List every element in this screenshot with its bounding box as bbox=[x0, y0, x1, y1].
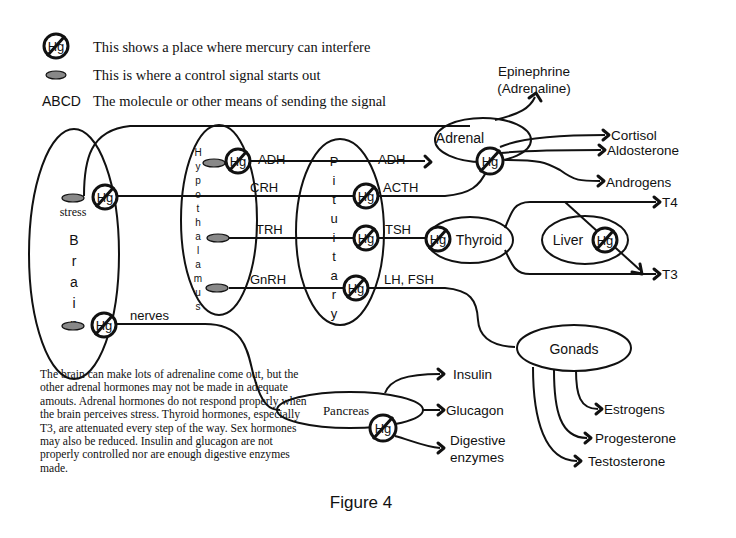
brain-label: B r a i n bbox=[69, 232, 78, 332]
legend-hg-text: This shows a place where mercury can int… bbox=[93, 39, 370, 55]
svg-text:P: P bbox=[330, 154, 339, 169]
legend-hg-icon: Hg bbox=[44, 34, 68, 58]
signal-crh: CRH bbox=[250, 180, 278, 195]
signal-start-stress bbox=[62, 194, 84, 202]
svg-text:h: h bbox=[195, 217, 201, 228]
signal-start-nerves bbox=[62, 322, 84, 330]
hg-icon-pituitary-acth: Hg bbox=[354, 184, 378, 208]
pancreas-label: Pancreas bbox=[323, 403, 369, 418]
legend-abcd-text: The molecule or other means of sending t… bbox=[93, 93, 386, 109]
legend-signal-icon bbox=[46, 71, 66, 79]
svg-text:y: y bbox=[331, 306, 338, 321]
svg-text:a: a bbox=[330, 268, 338, 283]
figure-caption: Figure 4 bbox=[330, 493, 392, 512]
svg-text:l: l bbox=[197, 245, 199, 256]
hg-icon-hypothalamus-adh: Hg bbox=[226, 149, 250, 173]
svg-text:a: a bbox=[70, 274, 78, 290]
signal-trh: TRH bbox=[256, 222, 283, 237]
output-t3: T3 bbox=[662, 267, 678, 282]
svg-text:s: s bbox=[196, 301, 201, 312]
explanatory-note: The brain can make lots of adrenaline co… bbox=[40, 368, 310, 475]
output-estrogens: Estrogens bbox=[604, 402, 665, 417]
svg-text:r: r bbox=[332, 287, 337, 302]
output-digestive: Digestive bbox=[450, 433, 506, 448]
signal-acth: ACTH bbox=[383, 180, 418, 195]
svg-text:o: o bbox=[195, 189, 201, 200]
hg-icon-liver: Hg bbox=[593, 228, 617, 252]
signal-start-trh bbox=[207, 234, 229, 242]
hypothalamus-label: H y p o t h a l a m u s bbox=[194, 147, 202, 312]
hg-icon-pituitary-tsh: Hg bbox=[354, 226, 378, 250]
signal-adh-pituitary: ADH bbox=[378, 152, 405, 167]
svg-text:i: i bbox=[333, 173, 336, 188]
output-epinephrine: Epinephrine bbox=[498, 64, 570, 79]
output-progesterone: Progesterone bbox=[595, 431, 676, 446]
output-adrenaline: (Adrenaline) bbox=[497, 81, 571, 96]
signal-tsh: TSH bbox=[385, 222, 411, 237]
output-enzymes: enzymes bbox=[450, 450, 504, 465]
svg-text:a: a bbox=[195, 231, 201, 242]
signal-gnrh: GnRH bbox=[250, 272, 286, 287]
svg-text:H: H bbox=[194, 147, 201, 158]
output-insulin: Insulin bbox=[453, 367, 492, 382]
output-t4: T4 bbox=[662, 195, 678, 210]
signal-lh-fsh: LH, FSH bbox=[384, 272, 434, 287]
stress-label: stress bbox=[60, 205, 87, 219]
hg-icon-brain-nerves: Hg bbox=[92, 313, 116, 337]
svg-text:r: r bbox=[72, 253, 77, 269]
hg-icon-thyroid: Hg bbox=[426, 227, 450, 251]
signal-start-points bbox=[62, 159, 229, 330]
signal-start-gnrh bbox=[206, 284, 228, 292]
svg-text:a: a bbox=[195, 259, 201, 270]
liver-label: Liver bbox=[553, 232, 584, 248]
svg-text:B: B bbox=[69, 232, 78, 248]
output-androgens: Androgens bbox=[606, 175, 672, 190]
svg-text:t: t bbox=[332, 192, 336, 207]
output-testosterone: Testosterone bbox=[588, 454, 665, 469]
legend: Hg This shows a place where mercury can … bbox=[42, 34, 386, 109]
svg-text:t: t bbox=[197, 203, 200, 214]
svg-text:i: i bbox=[72, 295, 75, 311]
hg-icon-adrenal: Hg bbox=[477, 148, 503, 174]
svg-text:u: u bbox=[330, 211, 337, 226]
signal-adh-hypothalamus: ADH bbox=[258, 152, 285, 167]
svg-text:m: m bbox=[194, 273, 202, 284]
hg-icon-pituitary-lh-fsh: Hg bbox=[344, 276, 368, 300]
signal-start-adh bbox=[203, 159, 225, 167]
gonads-label: Gonads bbox=[549, 341, 598, 357]
svg-text:p: p bbox=[195, 175, 201, 186]
svg-text:i: i bbox=[333, 230, 336, 245]
output-cortisol: Cortisol bbox=[611, 128, 657, 143]
legend-signal-text: This is where a control signal starts ou… bbox=[93, 67, 321, 83]
svg-text:u: u bbox=[195, 287, 201, 298]
output-aldosterone: Aldosterone bbox=[607, 143, 679, 158]
legend-abcd-label: ABCD bbox=[42, 93, 81, 109]
svg-text:y: y bbox=[196, 161, 201, 172]
adrenal-label: Adrenal bbox=[436, 130, 484, 146]
hg-icon-brain-stress: Hg bbox=[93, 185, 117, 209]
output-glucagon: Glucagon bbox=[446, 403, 504, 418]
svg-text:t: t bbox=[332, 249, 336, 264]
signal-nerves: nerves bbox=[130, 308, 170, 323]
thyroid-label: Thyroid bbox=[456, 232, 503, 248]
hg-icon-pancreas: Hg bbox=[370, 415, 396, 441]
